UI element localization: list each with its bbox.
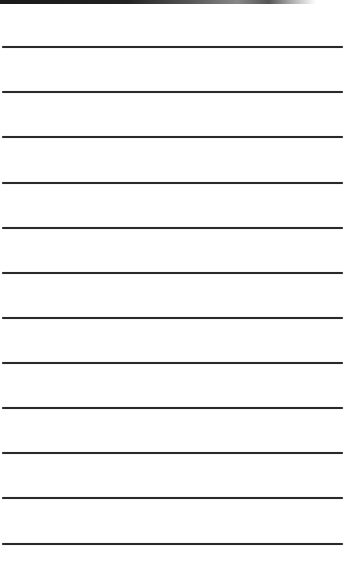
ruled-line [2, 46, 343, 48]
ruled-line [2, 272, 343, 274]
ruled-line [2, 543, 343, 545]
ruled-line [2, 497, 343, 499]
ruled-line [2, 362, 343, 364]
ruled-line [2, 91, 343, 93]
ruled-line [2, 136, 343, 138]
ruled-line [2, 452, 343, 454]
top-edge-band [0, 0, 316, 4]
ruled-line [2, 182, 343, 184]
ruled-line [2, 227, 343, 229]
ruled-line [2, 407, 343, 409]
ruled-line [2, 317, 343, 319]
